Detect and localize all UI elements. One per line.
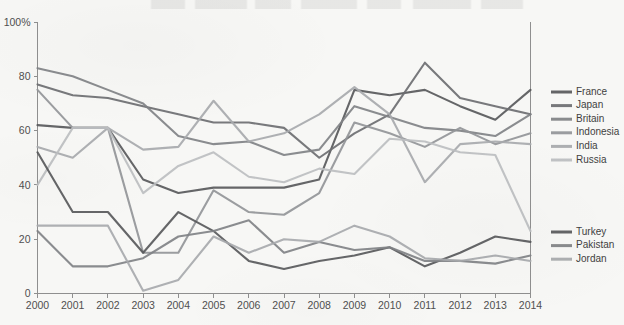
- x-tick-label: 2013: [484, 299, 508, 311]
- line-chart: 020406080100% 20002001200220032004200520…: [0, 0, 624, 325]
- legend-label-turkey: Turkey: [576, 226, 606, 237]
- legend-label-britain: Britain: [576, 113, 604, 124]
- legend-item-indonesia[interactable]: Indonesia: [551, 126, 620, 137]
- chart-canvas: 020406080100% 20002001200220032004200520…: [0, 0, 624, 325]
- x-tick-label: 2006: [237, 299, 261, 311]
- legend-label-france: France: [576, 86, 608, 97]
- legend-label-japan: Japan: [576, 99, 603, 110]
- legend-item-jordan[interactable]: Jordan: [551, 253, 607, 264]
- x-tick-label: 2002: [96, 299, 120, 311]
- chart-legend: FranceJapanBritainIndonesiaIndiaRussiaTu…: [551, 86, 620, 264]
- x-tick-label: 2004: [167, 299, 191, 311]
- y-tick-label: 40: [19, 179, 31, 191]
- x-tick-label: 2000: [26, 299, 50, 311]
- y-tick-label: 60: [19, 124, 31, 136]
- legend-item-japan[interactable]: Japan: [551, 99, 603, 110]
- y-tick-label: 80: [19, 70, 31, 82]
- x-tick-label: 2009: [343, 299, 367, 311]
- series-layer: [38, 63, 531, 291]
- legend-item-russia[interactable]: Russia: [551, 154, 607, 165]
- legend-label-jordan: Jordan: [576, 253, 607, 264]
- x-tick-label: 2003: [131, 299, 155, 311]
- x-tick-label: 2014: [519, 299, 543, 311]
- y-tick-label: 0: [25, 287, 31, 299]
- x-tick-label: 2007: [272, 299, 296, 311]
- series-line-pakistan: [38, 220, 531, 266]
- legend-item-britain[interactable]: Britain: [551, 113, 604, 124]
- legend-label-russia: Russia: [576, 154, 607, 165]
- y-axis-ticks: [34, 22, 38, 294]
- legend-label-pakistan: Pakistan: [576, 239, 614, 250]
- x-tick-label: 2005: [202, 299, 226, 311]
- series-line-indonesia: [38, 90, 531, 253]
- x-tick-label: 2008: [308, 299, 332, 311]
- x-axis-tick-labels: 2000200120022003200420052006200720082009…: [26, 299, 543, 311]
- legend-label-india: India: [576, 140, 598, 151]
- x-tick-label: 2011: [414, 299, 437, 311]
- series-line-jordan: [38, 226, 531, 291]
- upper-legend-group: FranceJapanBritainIndonesiaIndiaRussia: [551, 86, 620, 165]
- y-axis-tick-labels: 020406080100%: [4, 16, 31, 300]
- legend-label-indonesia: Indonesia: [576, 126, 620, 137]
- x-axis-ticks: [38, 294, 531, 298]
- x-tick-label: 2010: [378, 299, 402, 311]
- x-tick-label: 2001: [61, 299, 85, 311]
- y-tick-label: 20: [19, 233, 31, 245]
- legend-item-turkey[interactable]: Turkey: [551, 226, 606, 237]
- legend-item-pakistan[interactable]: Pakistan: [551, 239, 614, 250]
- y-tick-label: 100%: [4, 16, 31, 28]
- legend-item-france[interactable]: France: [551, 86, 608, 97]
- lower-legend-group: TurkeyPakistanJordan: [551, 226, 614, 264]
- x-tick-label: 2012: [448, 299, 472, 311]
- legend-item-india[interactable]: India: [551, 140, 598, 151]
